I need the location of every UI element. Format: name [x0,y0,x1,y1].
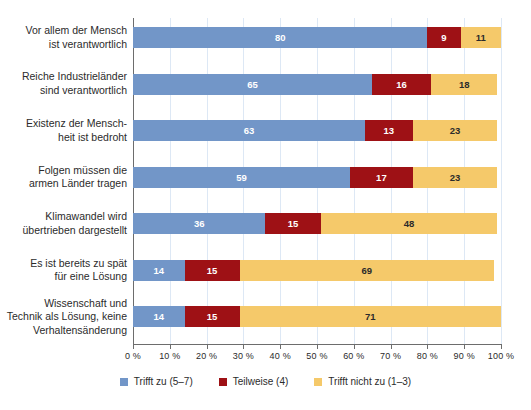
category-label: Vor allem der Mensch ist verantwortlich [0,24,127,51]
x-axis-tick-label: 90 % [454,351,475,361]
chart-legend: Trifft zu (5–7)Teilweise (4)Trifft nicht… [0,376,531,387]
chart-bar-row: Wissenschaft und Technik als Lösung, kei… [0,306,531,327]
x-axis-tick-label: 70 % [380,351,401,361]
category-label: Existenz der Mensch- heit ist bedroht [0,117,127,144]
legend-swatch-icon [120,378,128,386]
chart-bar-row: Folgen müssen die armen Länder tragen591… [0,167,531,188]
bar-segment: 15 [185,306,240,327]
chart-bar-row: Klimawandel wird übertrieben dargestellt… [0,213,531,234]
legend-label: Trifft nicht zu (1–3) [328,376,411,387]
bar-segment: 11 [461,27,501,48]
x-axis-tick-label: 50 % [306,351,327,361]
category-label: Wissenschaft und Technik als Lösung, kei… [0,297,127,338]
x-axis-tick [207,344,208,349]
x-axis-tick-label: 10 % [159,351,180,361]
legend-item[interactable]: Teilweise (4) [219,376,289,387]
chart-bar-row: Existenz der Mensch- heit ist bedroht631… [0,120,531,141]
x-axis-tick-label: 30 % [233,351,254,361]
chart-bar-row: Reiche Industrieländer sind verantwortli… [0,74,531,95]
x-axis-tick [354,344,355,349]
x-axis-tick-label: 20 % [196,351,217,361]
bar-segment: 48 [321,213,498,234]
x-axis-tick [280,344,281,349]
chart-bar-row: Vor allem der Mensch ist verantwortlich8… [0,27,531,48]
chart-bar-row: Es ist bereits zu spät für eine Lösung14… [0,260,531,281]
x-axis-tick [391,344,392,349]
x-axis-tick-label: 40 % [270,351,291,361]
x-axis-tick [317,344,318,349]
x-axis-tick [464,344,465,349]
bar-segment: 23 [413,167,498,188]
x-axis-tick-label: 0 % [125,351,141,361]
bar-segment: 15 [265,213,320,234]
x-axis-tick [427,344,428,349]
category-label: Folgen müssen die armen Länder tragen [0,164,127,191]
bar-segment: 9 [427,27,460,48]
bar-segment: 63 [133,120,365,141]
bar-segment: 13 [365,120,413,141]
legend-item[interactable]: Trifft zu (5–7) [120,376,193,387]
category-label: Reiche Industrieländer sind verantwortli… [0,70,127,97]
bar-segment: 17 [350,167,413,188]
bar-segment: 23 [413,120,498,141]
category-label: Klimawandel wird übertrieben dargestellt [0,210,127,237]
x-axis-tick [501,344,502,349]
bar-segment: 59 [133,167,350,188]
bar-segment: 14 [133,260,185,281]
bar-segment: 65 [133,74,372,95]
x-axis-tick [243,344,244,349]
bar-segment: 71 [240,306,501,327]
x-axis-tick-label: 60 % [343,351,364,361]
bar-segment: 18 [431,74,497,95]
bar-segment: 80 [133,27,427,48]
bar-segment: 69 [240,260,494,281]
x-axis-tick-label: 80 % [417,351,438,361]
bar-segment: 14 [133,306,185,327]
bar-segment: 15 [185,260,240,281]
legend-item[interactable]: Trifft nicht zu (1–3) [314,376,411,387]
legend-label: Trifft zu (5–7) [134,376,193,387]
stacked-bar-chart: Trifft zu (5–7)Teilweise (4)Trifft nicht… [0,0,531,410]
bar-segment: 36 [133,213,265,234]
x-axis-tick [170,344,171,349]
x-axis-tick [133,344,134,349]
x-axis-tick-label: 100 % [488,351,515,361]
legend-label: Teilweise (4) [233,376,289,387]
category-label: Es ist bereits zu spät für eine Lösung [0,257,127,284]
bar-segment: 16 [372,74,431,95]
legend-swatch-icon [314,378,322,386]
legend-swatch-icon [219,378,227,386]
